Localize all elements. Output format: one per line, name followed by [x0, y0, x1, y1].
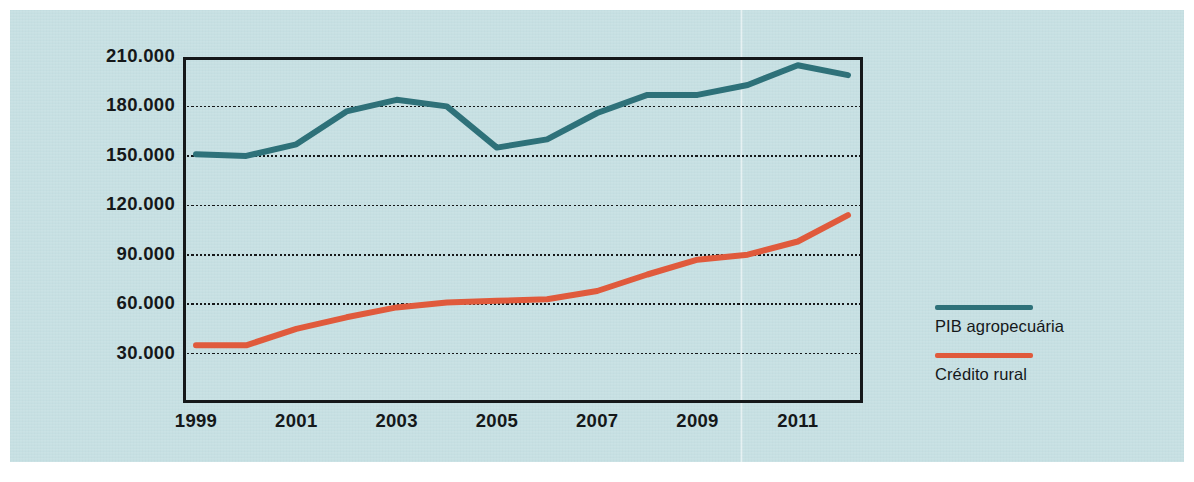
plot-border: [183, 57, 863, 403]
x-tick-label: 2003: [357, 410, 437, 432]
y-tick-label: 150.000: [45, 144, 175, 166]
legend-label: PIB agropecuária: [935, 317, 1175, 336]
legend-label: Crédito rural: [935, 365, 1175, 384]
legend-swatch: [935, 305, 1033, 310]
legend-swatch: [935, 353, 1033, 358]
y-axis-ticks: 210.000180.000150.000120.00090.00060.000…: [35, 57, 175, 403]
legend-item-1[interactable]: PIB agropecuária: [935, 305, 1175, 336]
x-tick-label: 2005: [457, 410, 537, 432]
y-tick-label: 210.000: [45, 45, 175, 67]
x-axis-ticks: 1999200120032005200720092011: [183, 410, 883, 438]
y-tick-label: 120.000: [45, 193, 175, 215]
y-tick-label: 60.000: [45, 292, 175, 314]
x-tick-label: 1999: [156, 410, 236, 432]
chart-legend: PIB agropecuáriaCrédito rural: [935, 305, 1175, 401]
plot-area: [183, 57, 863, 403]
x-tick-label: 2009: [658, 410, 738, 432]
chart-figure: R$ milhões 210.000180.000150.000120.0009…: [0, 0, 1194, 482]
x-tick-label: 2001: [256, 410, 336, 432]
y-tick-label: 90.000: [45, 243, 175, 265]
x-tick-label: 2007: [557, 410, 637, 432]
legend-item-2[interactable]: Crédito rural: [935, 353, 1175, 384]
x-tick-label: 2011: [758, 410, 838, 432]
y-tick-label: 30.000: [45, 342, 175, 364]
y-tick-label: 180.000: [45, 94, 175, 116]
